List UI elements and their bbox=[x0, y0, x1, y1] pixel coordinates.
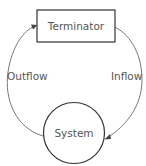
system-label: System bbox=[54, 127, 93, 139]
inflow-arrow-line bbox=[107, 27, 142, 138]
terminator-label: Terminator bbox=[47, 20, 105, 32]
inflow-arrowhead-icon bbox=[105, 134, 112, 140]
context-diagram: Outflow Inflow Terminator System bbox=[0, 0, 146, 166]
outflow-label: Outflow bbox=[7, 70, 48, 82]
system-node[interactable]: System bbox=[44, 103, 105, 164]
terminator-node[interactable]: Terminator bbox=[37, 10, 115, 42]
edge-inflow: Inflow bbox=[105, 27, 143, 140]
inflow-label: Inflow bbox=[111, 70, 143, 82]
